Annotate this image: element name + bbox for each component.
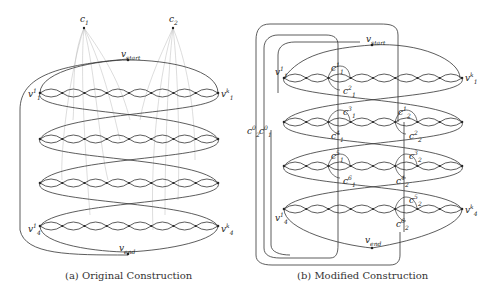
row1-right-label-a: vk1 <box>221 88 234 101</box>
clause-copy-c1-2: c21 <box>343 85 356 98</box>
clause-copy-c1-4: c41 <box>331 130 344 143</box>
end-node-label-b: vend <box>365 236 381 247</box>
clause-copy-c2-3: c32 <box>409 150 422 163</box>
row1-right-label-b: vk1 <box>465 72 478 85</box>
clause-copy-c2-4: c42 <box>396 175 409 188</box>
clause-node-c1: c1 <box>80 15 89 26</box>
panel-a <box>20 27 219 256</box>
row1-left-label-b: v11 <box>275 66 288 79</box>
clause-copy-c2-6: c62 <box>396 218 409 231</box>
side-label-c1-0: c01 <box>259 125 272 138</box>
clause-copy-c1-6: c61 <box>343 175 356 188</box>
start-node-label-a: vstart <box>121 50 140 61</box>
clause-copy-c2-5: c52 <box>409 194 422 207</box>
clause-copy-c2-1: c12 <box>398 106 411 119</box>
row4-right-label-a: vk4 <box>221 223 234 236</box>
side-label-c2-0: c02 <box>247 125 260 138</box>
clause-copy-c2-2: c22 <box>409 130 422 143</box>
clause-node-c2: c2 <box>169 15 178 26</box>
row4-left-label-b: v14 <box>275 212 288 225</box>
end-node-label-a: vend <box>119 244 135 255</box>
caption-b: (b) Modified Construction <box>297 270 428 281</box>
row4-right-label-b: vk4 <box>465 204 478 217</box>
panel-b <box>256 24 463 265</box>
row1-left-label-a: v11 <box>28 88 41 101</box>
start-node-label-b: vstart <box>366 35 385 46</box>
caption-a: (a) Original Construction <box>65 270 192 281</box>
row4-left-label-a: v14 <box>28 223 41 236</box>
clause-copy-c1-3: c31 <box>343 106 356 119</box>
clause-copy-c1-5: c51 <box>331 150 344 163</box>
clause-copy-c1-1: c11 <box>331 62 344 75</box>
